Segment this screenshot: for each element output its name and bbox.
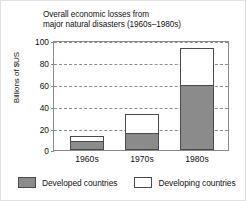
bar-segment-developed-1980s[interactable] <box>180 85 214 150</box>
bar-group-1960s[interactable]: 1960s <box>70 136 104 150</box>
y-tick-label-0: 0 <box>44 146 49 156</box>
legend-label-developing: Developing countries <box>158 178 235 188</box>
legend-swatch-developing-icon <box>134 177 152 188</box>
chart-title: Overall economic losses from major natur… <box>43 10 233 30</box>
y-tick-mark-100 <box>51 42 54 43</box>
bar-group-1970s[interactable]: 1970s <box>125 114 159 150</box>
bar-segment-developed-1970s[interactable] <box>125 133 159 150</box>
x-tick-label-1980s: 1980s <box>167 154 227 164</box>
chart-legend: Developed countries Developing countries <box>18 174 232 191</box>
y-axis-title: Billions of $US <box>12 41 21 115</box>
plot-area: 100 80 60 40 20 0 1960s 1970s <box>53 41 229 151</box>
y-tick-label-20: 20 <box>40 125 49 135</box>
gridline-100 <box>54 42 228 43</box>
y-tick-label-100: 100 <box>35 37 49 47</box>
x-tick-label-1960s: 1960s <box>57 154 117 164</box>
bar-group-1980s[interactable]: 1980s <box>180 48 214 150</box>
bar-segment-developing-1980s[interactable] <box>180 48 214 85</box>
bar-segment-developed-1960s[interactable] <box>70 141 104 150</box>
legend-swatch-developed-icon <box>18 177 36 188</box>
legend-entry-developing: Developing countries <box>134 177 235 188</box>
y-tick-label-60: 60 <box>40 81 49 91</box>
y-tick-mark-40 <box>51 108 54 109</box>
bar-segment-developing-1970s[interactable] <box>125 114 159 132</box>
y-tick-mark-0 <box>51 151 54 152</box>
legend-label-developed: Developed countries <box>42 178 117 188</box>
y-tick-mark-20 <box>51 130 54 131</box>
x-tick-label-1970s: 1970s <box>112 154 172 164</box>
chart-figure: Overall economic losses from major natur… <box>0 0 246 201</box>
y-tick-label-80: 80 <box>40 59 49 69</box>
legend-entry-developed: Developed countries <box>18 177 117 188</box>
y-tick-label-40: 40 <box>40 103 49 113</box>
y-tick-mark-80 <box>51 64 54 65</box>
y-tick-mark-60 <box>51 86 54 87</box>
